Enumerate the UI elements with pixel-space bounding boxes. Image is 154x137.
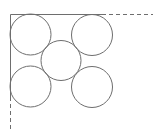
circle-bottom-right xyxy=(72,67,113,108)
circle-packing-diagram xyxy=(0,0,154,137)
circle-bottom-left xyxy=(10,66,51,107)
